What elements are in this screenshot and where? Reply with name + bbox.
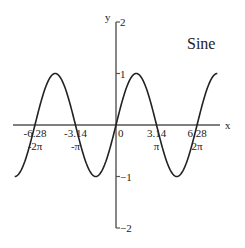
- chart-title: Sine: [187, 35, 215, 52]
- y-tick-label: 2: [120, 16, 126, 28]
- x-tick-label: 6.28: [187, 127, 207, 139]
- x-tick-sublabel: -2π: [28, 140, 43, 152]
- x-tick-label: 3.14: [147, 127, 167, 139]
- x-tick-label: 0: [118, 127, 124, 139]
- x-tick-sublabel: -π: [71, 140, 81, 152]
- x-tick-sublabel: 2π: [191, 140, 203, 152]
- y-tick-label: −2: [120, 222, 132, 234]
- x-tick-label: -6.28: [24, 127, 47, 139]
- x-tick-label: -3.14: [64, 127, 87, 139]
- x-tick-sublabel: π: [154, 140, 160, 152]
- y-tick-label: −1: [120, 171, 132, 183]
- x-axis-label: x: [225, 119, 231, 131]
- y-tick-label: 1: [120, 68, 126, 80]
- chart-canvas: -6.28-2π-3.14-π03.14π6.282π 21−1−2 Sine …: [0, 0, 245, 248]
- sine-chart: -6.28-2π-3.14-π03.14π6.282π 21−1−2 Sine …: [0, 0, 245, 248]
- y-axis-label: y: [105, 11, 111, 23]
